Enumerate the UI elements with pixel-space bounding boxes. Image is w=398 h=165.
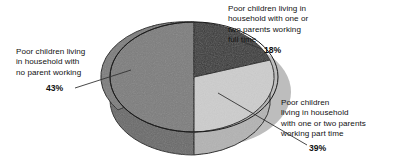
- slice-percent-part-time: 39%: [309, 143, 326, 153]
- slice-label-no-parent-working: Poor children living in household with n…: [16, 47, 128, 78]
- slice-label-full-time: Poor children living in household with o…: [228, 4, 346, 46]
- slice-label-part-time: Poor children living in household with o…: [281, 98, 398, 140]
- slice-percent-full-time: 18%: [264, 45, 281, 55]
- pie-chart-figure: Poor children living in household with o…: [0, 0, 398, 165]
- slice-percent-no-parent-working: 43%: [46, 83, 63, 93]
